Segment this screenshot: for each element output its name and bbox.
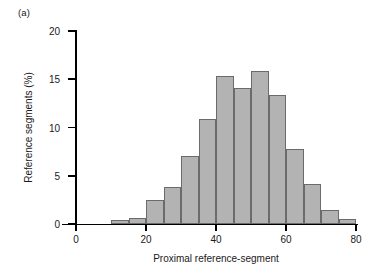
y-axis-tick-label: 15 <box>30 74 60 85</box>
plot-area <box>76 31 356 224</box>
x-axis-tick <box>355 224 357 231</box>
x-axis-tick <box>285 224 287 231</box>
histogram-bar <box>111 220 129 224</box>
x-axis-title: Proximal reference-segment <box>76 253 356 264</box>
histogram-bar <box>321 210 339 224</box>
y-axis-tick-label: 0 <box>30 219 60 230</box>
y-axis-tick <box>68 78 75 80</box>
y-axis-tick-label: 5 <box>30 170 60 181</box>
x-axis-tick-label: 20 <box>126 234 166 245</box>
histogram-bar <box>216 76 234 224</box>
y-axis-tick <box>68 223 75 225</box>
x-axis-tick <box>215 224 217 231</box>
x-axis-tick <box>75 224 77 231</box>
histogram-bar <box>251 71 269 224</box>
histogram-bar <box>146 200 164 224</box>
histogram-bar <box>199 119 217 224</box>
x-axis-tick <box>145 224 147 231</box>
histogram-bar <box>269 95 287 224</box>
y-axis-tick <box>68 175 75 177</box>
histogram-figure: (a) Reference segments (%) Proximal refe… <box>0 0 379 275</box>
histogram-bar <box>234 88 252 224</box>
histogram-bar <box>286 149 304 224</box>
y-axis-tick <box>68 30 75 32</box>
histogram-bar <box>181 156 199 225</box>
histogram-bar <box>304 184 322 224</box>
histogram-bar <box>339 219 357 224</box>
y-axis-tick-label: 20 <box>30 26 60 37</box>
histogram-bar <box>129 218 147 224</box>
x-axis-tick-label: 80 <box>336 234 376 245</box>
y-axis-tick <box>68 127 75 129</box>
x-axis-tick-label: 0 <box>56 234 96 245</box>
panel-label: (a) <box>18 7 30 18</box>
x-axis-tick-label: 40 <box>196 234 236 245</box>
y-axis-tick-label: 10 <box>30 122 60 133</box>
x-axis-tick-label: 60 <box>266 234 306 245</box>
histogram-bar <box>164 187 182 224</box>
